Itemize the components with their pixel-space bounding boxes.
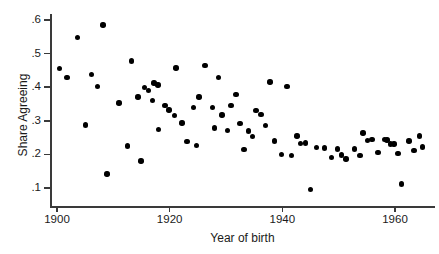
data-point (138, 158, 143, 163)
data-point (129, 58, 134, 63)
data-point (219, 112, 224, 117)
x-tick-label: 1900 (27, 213, 87, 225)
y-axis-line (50, 14, 52, 207)
data-point (146, 88, 151, 93)
data-point (241, 147, 246, 152)
data-point (237, 121, 242, 126)
data-point (184, 139, 189, 144)
data-point (308, 187, 313, 192)
data-point (172, 113, 177, 118)
x-tick-label: 1940 (252, 213, 312, 225)
data-point (417, 133, 422, 138)
data-point (95, 84, 100, 89)
data-point (279, 152, 284, 157)
y-tick-mark (44, 19, 50, 21)
data-point (89, 72, 94, 77)
data-point (263, 123, 268, 128)
data-point (395, 151, 400, 156)
data-point (135, 94, 140, 99)
data-point (125, 143, 130, 148)
data-point (233, 92, 238, 97)
x-tick-label: 1920 (140, 213, 200, 225)
data-point (329, 155, 334, 160)
data-point (289, 153, 294, 158)
data-point (166, 107, 171, 112)
x-tick-mark (56, 206, 58, 212)
scatter-plot-figure: .1.2.3.4.5.61900192019401960 Share Agree… (0, 0, 439, 254)
data-point (246, 128, 251, 133)
data-point (210, 105, 215, 110)
data-point (57, 66, 62, 71)
data-point (228, 103, 233, 108)
x-axis-title: Year of birth (50, 231, 435, 245)
y-tick-mark (44, 86, 50, 88)
data-point (284, 84, 289, 89)
data-point (314, 145, 319, 150)
data-point (100, 22, 105, 27)
x-tick-label: 1960 (365, 213, 425, 225)
data-point (116, 100, 121, 105)
data-point (303, 140, 308, 145)
data-point (267, 79, 272, 84)
data-point (216, 75, 221, 80)
data-point (156, 127, 161, 132)
data-point (75, 35, 80, 40)
data-point (173, 65, 178, 70)
data-point (352, 146, 357, 151)
y-tick-mark (44, 154, 50, 156)
x-tick-mark (282, 206, 284, 212)
y-tick-label: .6 (5, 14, 41, 25)
data-point (360, 130, 365, 135)
data-point (391, 141, 396, 146)
y-tick-mark (44, 53, 50, 55)
data-point (343, 156, 348, 161)
y-axis-title: Share Agreeing (16, 40, 30, 190)
x-tick-mark (394, 206, 396, 212)
data-point (357, 153, 362, 158)
data-point (194, 143, 199, 148)
data-point (420, 144, 425, 149)
data-point (150, 98, 155, 103)
data-point (179, 120, 184, 125)
plot-area: .1.2.3.4.5.61900192019401960 Share Agree… (0, 0, 439, 254)
data-point (225, 128, 230, 133)
data-point (322, 145, 327, 150)
data-point (191, 105, 196, 110)
data-point (258, 112, 263, 117)
data-point (272, 138, 277, 143)
data-point (155, 82, 160, 87)
data-point (335, 146, 340, 151)
data-point (406, 138, 411, 143)
x-tick-mark (169, 206, 171, 212)
data-point (196, 94, 201, 99)
data-point (64, 75, 69, 80)
data-point (83, 122, 88, 127)
data-point (399, 181, 404, 186)
y-tick-mark (44, 187, 50, 189)
data-point (375, 150, 380, 155)
data-point (369, 137, 374, 142)
data-point (294, 133, 299, 138)
x-axis-line (50, 206, 435, 208)
data-point (202, 63, 207, 68)
y-tick-mark (44, 120, 50, 122)
data-point (212, 125, 217, 130)
data-point (411, 148, 416, 153)
data-point (250, 134, 255, 139)
data-point (104, 171, 109, 176)
